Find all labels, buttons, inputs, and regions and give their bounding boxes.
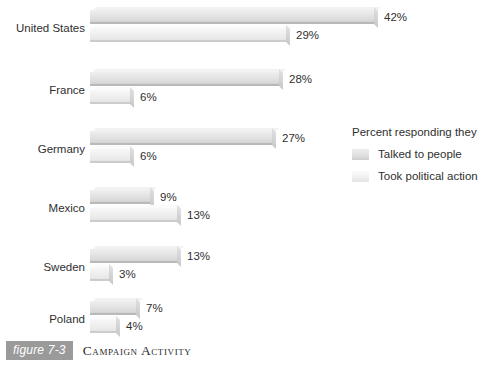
bar-bottom-edge [90, 161, 131, 163]
bar-value-sweden-series-2: 3% [119, 268, 136, 281]
bar-end-cap [109, 264, 113, 285]
bar-germany-series-1 [90, 131, 273, 145]
bar-bottom-edge [90, 331, 117, 333]
category-label-united-states: United States [16, 22, 85, 35]
bar-end-cap [374, 7, 378, 28]
legend-item-talked-to-people: Talked to people [352, 148, 478, 161]
bar-value-poland-series-2: 4% [126, 320, 143, 333]
bar-end-cap [286, 25, 290, 46]
figure-number-badge: figure 7-3 [6, 341, 73, 360]
bar-germany-series-2 [90, 149, 131, 163]
legend-title: Percent responding they [352, 126, 478, 139]
bar-bottom-edge [90, 279, 110, 281]
bar-value-poland-series-1: 7% [146, 302, 163, 315]
bar-end-cap [130, 87, 134, 108]
campaign-activity-chart: Percent responding they Talked to people… [0, 0, 488, 368]
bar-value-united-states-series-2: 29% [296, 29, 319, 42]
bar-mexico-series-2 [90, 208, 178, 222]
bar-bottom-edge [90, 143, 273, 145]
bar-bottom-edge [90, 84, 280, 86]
bar-end-cap [279, 69, 283, 90]
legend-swatch-talked-to-people [352, 149, 369, 160]
bar-bottom-edge [90, 40, 287, 42]
legend-label-took-political-action: Took political action [378, 170, 478, 183]
legend-label-talked-to-people: Talked to people [378, 148, 462, 161]
category-label-poland: Poland [49, 313, 85, 326]
bar-bottom-edge [90, 261, 178, 263]
bar-mexico-series-1 [90, 190, 151, 204]
bar-value-mexico-series-2: 13% [187, 209, 210, 222]
legend-item-took-political-action: Took political action [352, 170, 478, 183]
bar-united-states-series-1 [90, 10, 375, 24]
category-label-france: France [49, 84, 85, 97]
bar-bottom-edge [90, 313, 137, 315]
bar-france-series-2 [90, 90, 131, 104]
bar-end-cap [177, 246, 181, 267]
category-label-sweden: Sweden [43, 261, 85, 274]
bar-end-cap [136, 298, 140, 319]
bar-value-germany-series-2: 6% [140, 150, 157, 163]
bar-value-france-series-2: 6% [140, 91, 157, 104]
bar-bottom-edge [90, 202, 151, 204]
bar-france-series-1 [90, 72, 280, 86]
bar-end-cap [177, 205, 181, 226]
chart-legend: Percent responding they Talked to people… [352, 126, 478, 192]
bar-bottom-edge [90, 102, 131, 104]
category-label-mexico: Mexico [49, 202, 85, 215]
bar-end-cap [130, 146, 134, 167]
bar-value-france-series-1: 28% [289, 73, 312, 86]
bar-end-cap [116, 316, 120, 337]
bar-bottom-edge [90, 22, 375, 24]
bar-sweden-series-1 [90, 249, 178, 263]
legend-swatch-took-political-action [352, 171, 369, 182]
bar-value-mexico-series-1: 9% [160, 191, 177, 204]
bar-value-united-states-series-1: 42% [384, 11, 407, 24]
figure-caption: figure 7-3 Campaign Activity [6, 341, 191, 360]
bar-united-states-series-2 [90, 28, 287, 42]
bar-poland-series-1 [90, 301, 137, 315]
bar-poland-series-2 [90, 319, 117, 333]
bar-end-cap [272, 128, 276, 149]
figure-title: Campaign Activity [83, 343, 192, 359]
category-label-germany: Germany [38, 143, 85, 156]
bar-bottom-edge [90, 220, 178, 222]
bar-value-sweden-series-1: 13% [187, 250, 210, 263]
bar-sweden-series-2 [90, 267, 110, 281]
bar-value-germany-series-1: 27% [282, 132, 305, 145]
